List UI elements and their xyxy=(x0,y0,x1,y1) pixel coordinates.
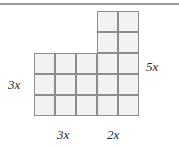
grid-cell xyxy=(55,74,76,95)
grid-cell xyxy=(55,95,76,116)
dimension-label-left: 3x xyxy=(8,78,20,91)
grid-cell xyxy=(97,95,118,116)
dimension-label-right: 5x xyxy=(146,60,158,73)
grid-cell xyxy=(34,53,55,74)
grid-cell xyxy=(118,32,139,53)
grid-cell xyxy=(34,74,55,95)
grid-cell xyxy=(76,74,97,95)
grid-cell xyxy=(97,11,118,32)
grid-cell xyxy=(118,95,139,116)
dimension-label-bottom-right: 2x xyxy=(107,128,119,141)
top-divider-rule xyxy=(0,3,179,5)
grid-cell xyxy=(97,32,118,53)
grid-cell xyxy=(34,95,55,116)
figure-container: 3x 5x 3x 2x xyxy=(0,0,179,147)
grid-cell xyxy=(118,11,139,32)
grid-cell xyxy=(76,95,97,116)
dimension-label-bottom-left: 3x xyxy=(57,128,69,141)
grid-cell xyxy=(118,53,139,74)
grid-cell xyxy=(97,74,118,95)
grid-cell xyxy=(97,53,118,74)
grid-cell xyxy=(55,53,76,74)
grid-cell xyxy=(118,74,139,95)
grid-cell xyxy=(76,53,97,74)
